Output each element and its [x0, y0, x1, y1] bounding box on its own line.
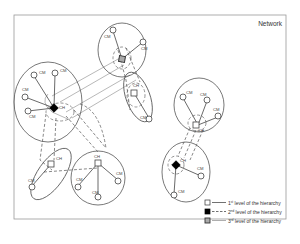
- first-level-cluster-head: [48, 161, 54, 167]
- cluster-member-node: [75, 184, 81, 190]
- cm-label: CM: [140, 115, 147, 120]
- cm-label: CM: [178, 189, 185, 194]
- cm-label: CM: [39, 70, 46, 75]
- legend-label: 1st level of the hierarchy: [228, 200, 281, 206]
- cm-label: CM: [28, 178, 35, 183]
- legend-label: 2nd level of the hierarchy: [228, 209, 282, 215]
- cluster-member-node: [215, 113, 221, 119]
- cm-label: CM: [29, 114, 36, 119]
- cm-label: CM: [186, 90, 193, 95]
- white-square-icon: [205, 200, 210, 205]
- ch-label: CH: [59, 105, 65, 110]
- cluster-member-node: [22, 94, 28, 100]
- cm-label: CM: [197, 166, 204, 171]
- cm-label: CM: [92, 190, 99, 195]
- cm-label: CM: [104, 34, 111, 39]
- cm-label: CM: [116, 171, 123, 176]
- cm-label: CM: [22, 87, 29, 92]
- first-level-cluster-head: [131, 90, 137, 96]
- ch-label: CH: [133, 83, 139, 88]
- third-level-cluster-head: [119, 56, 126, 63]
- cluster-member-node: [52, 70, 58, 76]
- cluster-member-node: [171, 192, 177, 198]
- ch-label: CH: [198, 128, 204, 133]
- ch-label: CH: [56, 156, 62, 161]
- ch-label: CH: [180, 158, 186, 163]
- ch-label: CH: [94, 154, 100, 159]
- cluster-member-node: [198, 173, 204, 179]
- first-level-cluster-head: [95, 160, 101, 166]
- cluster-member-node: [115, 178, 121, 184]
- legend-label: 3rd level of the hierarchy: [228, 218, 281, 224]
- network-diagram: Network CM CM: [0, 0, 300, 244]
- black-square-icon: [205, 209, 210, 214]
- cm-label: CM: [200, 92, 207, 97]
- gray-square-icon: [205, 218, 210, 223]
- cm-label: CM: [76, 177, 83, 182]
- diagram-title: Network: [258, 20, 283, 27]
- cluster-member-node: [146, 116, 152, 122]
- cluster-member-node: [29, 184, 35, 190]
- cm-label: CM: [213, 107, 220, 112]
- cluster-member-node: [110, 27, 116, 33]
- cluster-member-node: [31, 72, 37, 78]
- cm-label: CM: [141, 46, 148, 51]
- cluster-member-node: [140, 39, 146, 45]
- cluster-member-node: [204, 97, 210, 103]
- cm-label: CM: [60, 68, 67, 73]
